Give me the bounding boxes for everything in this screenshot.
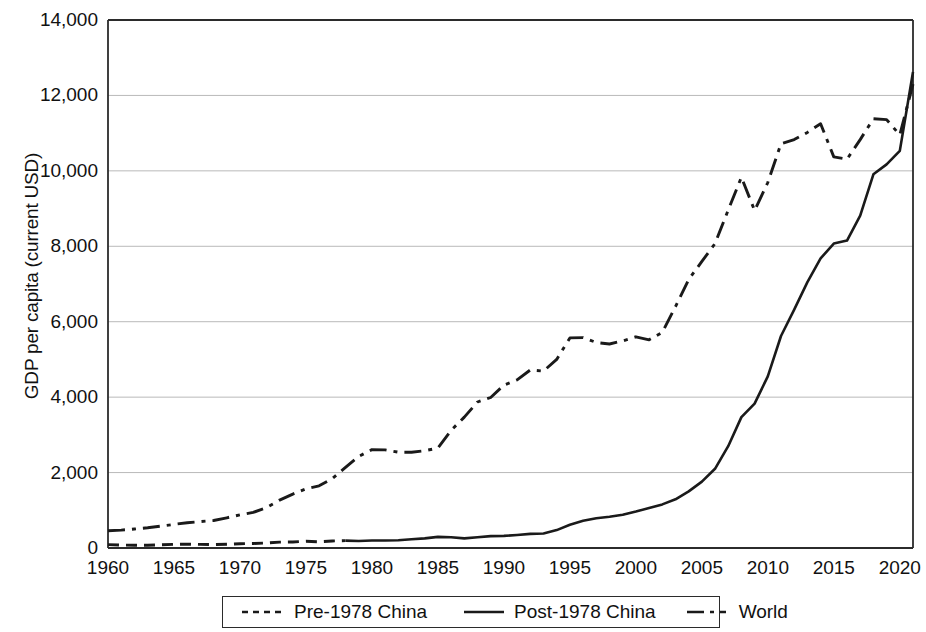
legend-line-icon (241, 605, 287, 619)
x-axis-tick-label: 1995 (535, 558, 605, 578)
x-axis-tick-label: 2020 (865, 558, 926, 578)
x-axis-tick-label: 2005 (667, 558, 737, 578)
gdp-per-capita-line-chart: GDP per capita (current USD) 14,00012,00… (0, 0, 926, 632)
x-axis-tick-label: 1965 (139, 558, 209, 578)
legend-item: Pre-1978 China (241, 602, 427, 622)
x-axis-tick-label: 1990 (469, 558, 539, 578)
chart-legend: Pre-1978 ChinaPost-1978 ChinaWorld (222, 596, 720, 628)
x-axis-tick-label: 2010 (733, 558, 803, 578)
gridlines (108, 95, 913, 472)
axis-frame (108, 20, 913, 548)
x-axis-tick-label: 1980 (337, 558, 407, 578)
series-line (108, 541, 346, 546)
legend-line-icon (461, 605, 507, 619)
legend-item-label: World (739, 602, 788, 622)
x-axis-tick-label: 1985 (403, 558, 473, 578)
x-axis-tick-label: 2000 (601, 558, 671, 578)
x-axis-tick-label: 2015 (799, 558, 869, 578)
legend-item: World (686, 602, 788, 622)
legend-item-label: Pre-1978 China (294, 602, 427, 622)
x-axis-tick-label: 1975 (271, 558, 341, 578)
legend-item: Post-1978 China (461, 602, 656, 622)
series-line (108, 84, 913, 531)
x-axis-tick-label: 1970 (205, 558, 275, 578)
legend-item-label: Post-1978 China (514, 602, 656, 622)
data-series-layer (108, 72, 913, 545)
x-axis-tick-label: 1960 (73, 558, 143, 578)
plot-area (0, 0, 926, 632)
legend-line-icon (686, 605, 732, 619)
